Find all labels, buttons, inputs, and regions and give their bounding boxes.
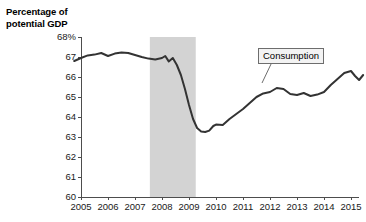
chart-container: Percentage of potential GDP 606162636465… xyxy=(0,0,366,222)
x-tick-label: 2005 xyxy=(70,202,91,212)
x-axis-tick-labels: 2005200620072008200920102011201220132014… xyxy=(0,0,366,222)
x-tick-label: 2009 xyxy=(178,202,199,212)
x-tick-label: 2012 xyxy=(259,202,280,212)
x-tick-label: 2008 xyxy=(151,202,172,212)
x-tick-label: 2006 xyxy=(97,202,118,212)
x-tick-label: 2013 xyxy=(286,202,307,212)
x-tick-label: 2010 xyxy=(205,202,226,212)
x-tick-label: 2011 xyxy=(233,202,253,212)
consumption-series-label: Consumption xyxy=(258,48,324,64)
x-tick-label: 2007 xyxy=(124,202,145,212)
x-tick-label: 2015 xyxy=(340,202,361,212)
x-tick-label: 2014 xyxy=(313,202,334,212)
